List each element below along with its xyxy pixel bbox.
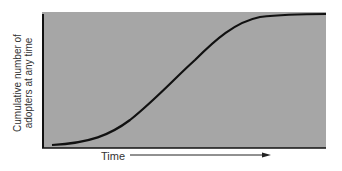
x-axis-label: Time — [101, 150, 125, 162]
y-axis-label-line2: adopters at any time — [23, 18, 34, 148]
chart — [0, 0, 342, 171]
y-axis-label-line1: Cumulative number of — [12, 18, 23, 148]
y-axis-label: Cumulative number of adopters at any tim… — [12, 18, 34, 148]
plot-area — [42, 12, 326, 148]
time-arrow-head — [262, 153, 271, 158]
